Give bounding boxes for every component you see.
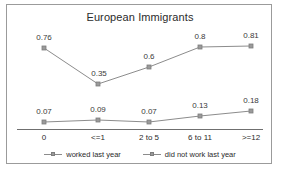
data-label-worked-4: 0.81 (243, 31, 259, 40)
data-label-worked-3: 0.8 (194, 32, 205, 41)
data-label-notworked-1: 0.09 (90, 105, 106, 114)
legend-item-did-not-work-last-year[interactable]: did not work last year (143, 150, 236, 159)
x-axis-label-0: 0 (42, 133, 46, 142)
data-label-worked-1: 0.35 (91, 69, 107, 78)
data-label-notworked-0: 0.07 (36, 107, 52, 116)
chart-frame: European Immigrants (6, 4, 272, 164)
data-label-notworked-3: 0.13 (192, 101, 208, 110)
chart-screenshot: European Immigrants (0, 0, 281, 173)
legend-marker-icon-did-not-work-last-year (143, 151, 161, 158)
legend-marker-icon-worked-last-year (44, 151, 62, 158)
chart-legend: worked last year did not work last year (7, 150, 273, 159)
legend-label-worked-last-year: worked last year (66, 150, 121, 159)
legend-label-did-not-work-last-year: did not work last year (165, 150, 236, 159)
plot-area: European Immigrants (7, 5, 271, 163)
data-label-notworked-2: 0.07 (141, 107, 157, 116)
data-label-notworked-4: 0.18 (243, 96, 259, 105)
data-label-worked-2: 0.6 (143, 52, 154, 61)
x-axis-label-1: <=1 (91, 133, 105, 142)
x-axis-label-2: 2 to 5 (139, 133, 159, 142)
series-markers-worked-last-year (42, 44, 253, 86)
x-axis-label-3: 6 to 11 (188, 133, 212, 142)
x-axis-label-4: >=12 (242, 133, 260, 142)
legend-item-worked-last-year[interactable]: worked last year (44, 150, 121, 159)
data-label-worked-0: 0.76 (36, 33, 52, 42)
